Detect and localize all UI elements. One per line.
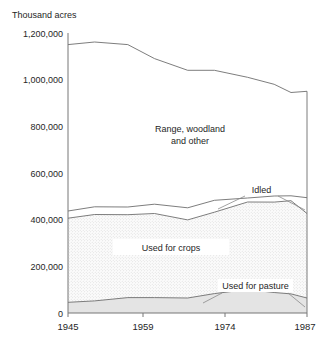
plot-bands	[68, 42, 307, 313]
series-label-range-line2: and other	[171, 136, 209, 146]
y-tick-label-600000: 600,000	[30, 169, 63, 179]
y-tick-label-1000000: 1,000,000	[23, 75, 63, 85]
chart-canvas: Thousand acres 1,200,000 1,000,000 800,0…	[0, 0, 331, 346]
x-tick-label-1987: 1987	[294, 321, 315, 332]
x-tick-label-1959: 1959	[132, 321, 153, 332]
x-axis-labels: 1945 1959 1974 1987	[57, 321, 315, 332]
y-tick-label-400000: 400,000	[30, 215, 63, 225]
series-label-range-line1: Range, woodland	[155, 124, 225, 134]
series-label-pasture: Used for pasture	[222, 281, 289, 291]
x-tick-label-1974: 1974	[214, 321, 235, 332]
series-label-crops: Used for crops	[142, 243, 201, 253]
y-tick-label-1200000: 1,200,000	[23, 29, 63, 39]
x-tick-label-1945: 1945	[57, 321, 78, 332]
y-tick-label-800000: 800,000	[30, 122, 63, 132]
y-tick-label-0: 0	[58, 309, 63, 319]
series-label-idled: Idled	[252, 185, 272, 195]
y-tick-label-200000: 200,000	[30, 262, 63, 272]
y-axis-unit-label: Thousand acres	[12, 10, 77, 20]
land-use-area-chart: Thousand acres 1,200,000 1,000,000 800,0…	[0, 0, 331, 346]
y-axis-labels: Thousand acres 1,200,000 1,000,000 800,0…	[12, 10, 77, 319]
